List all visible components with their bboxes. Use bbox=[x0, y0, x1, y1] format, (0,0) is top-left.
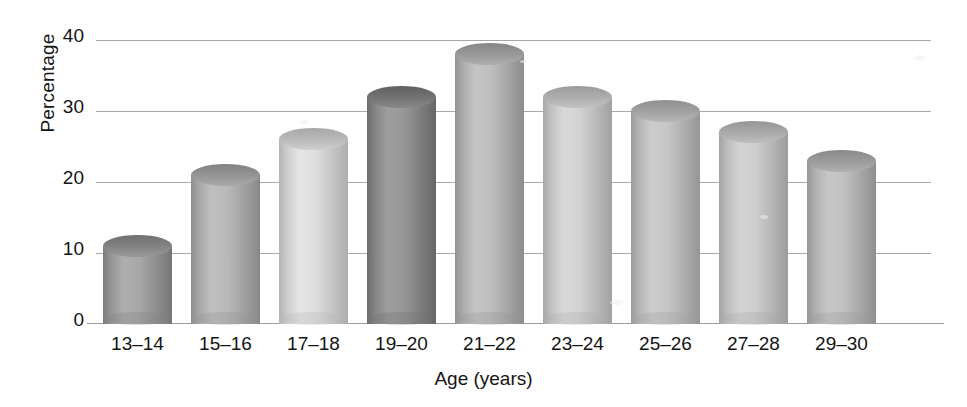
bar-top-ellipse bbox=[807, 150, 876, 172]
bar-top-ellipse bbox=[631, 100, 700, 122]
bar-body bbox=[719, 132, 788, 324]
bar-body bbox=[455, 54, 524, 324]
y-tick-label-0: 0 bbox=[73, 309, 84, 331]
bar-23-24 bbox=[543, 86, 612, 324]
bar-series bbox=[96, 40, 931, 324]
bar-top-ellipse bbox=[103, 235, 172, 257]
bar-top-ellipse bbox=[191, 164, 260, 186]
bar-top-ellipse bbox=[543, 86, 612, 108]
bar-chart: Percentage 010203040 13–1415–1617–1819–2… bbox=[0, 0, 967, 407]
plot-area: 010203040 bbox=[96, 40, 931, 324]
bar-bottom-ellipse bbox=[455, 312, 524, 325]
y-tick-label-40: 40 bbox=[63, 25, 84, 47]
bar-bottom-ellipse bbox=[719, 312, 788, 325]
bar-bottom-ellipse bbox=[367, 312, 436, 325]
x-axis-title: Age (years) bbox=[0, 368, 967, 390]
paper-speck bbox=[760, 215, 768, 219]
bar-17-18 bbox=[279, 128, 348, 324]
x-tick-label-29-30: 29–30 bbox=[782, 333, 902, 355]
bar-bottom-ellipse bbox=[191, 312, 260, 325]
bar-body bbox=[807, 161, 876, 324]
paper-speck bbox=[915, 55, 925, 61]
y-tick-label-10: 10 bbox=[63, 238, 84, 260]
bar-bottom-ellipse bbox=[631, 312, 700, 325]
bar-body bbox=[367, 97, 436, 324]
y-tick-label-20: 20 bbox=[63, 167, 84, 189]
bar-bottom-ellipse bbox=[103, 312, 172, 325]
bar-25-26 bbox=[631, 100, 700, 324]
bar-29-30 bbox=[807, 150, 876, 324]
bar-body bbox=[279, 139, 348, 324]
paper-speck bbox=[300, 120, 309, 124]
bar-body bbox=[191, 175, 260, 324]
paper-speck bbox=[610, 300, 624, 305]
bar-15-16 bbox=[191, 164, 260, 324]
y-tick-label-30: 30 bbox=[63, 96, 84, 118]
bar-top-ellipse bbox=[367, 86, 436, 108]
bar-bottom-ellipse bbox=[279, 312, 348, 325]
bar-21-22 bbox=[455, 43, 524, 324]
y-axis-title: Percentage bbox=[35, 0, 61, 193]
bar-bottom-ellipse bbox=[543, 312, 612, 325]
bar-19-20 bbox=[367, 86, 436, 324]
bar-27-28 bbox=[719, 121, 788, 324]
bar-body bbox=[631, 111, 700, 324]
bar-bottom-ellipse bbox=[807, 312, 876, 325]
bar-body bbox=[543, 97, 612, 324]
paper-speck bbox=[520, 60, 527, 63]
bar-13-14 bbox=[103, 235, 172, 324]
